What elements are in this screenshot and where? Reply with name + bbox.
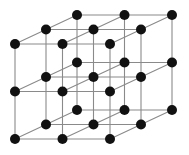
lattice-canvas bbox=[0, 0, 189, 155]
lattice-atom bbox=[10, 134, 20, 144]
lattice-bond bbox=[63, 30, 94, 45]
lattice-bond bbox=[141, 110, 172, 125]
lattice-bond bbox=[141, 63, 172, 78]
lattice-bond bbox=[141, 15, 172, 30]
lattice-bond bbox=[110, 30, 141, 45]
lattice-bond bbox=[15, 30, 46, 45]
lattice-atom bbox=[105, 87, 115, 97]
lattice-bond bbox=[63, 125, 94, 140]
lattice-atom bbox=[58, 39, 68, 49]
lattice-atom bbox=[120, 105, 130, 115]
lattice-bond bbox=[94, 110, 125, 125]
lattice-atom bbox=[136, 72, 146, 82]
lattice-bond bbox=[110, 125, 141, 140]
lattice-node-layer bbox=[10, 10, 177, 144]
lattice-bond bbox=[110, 77, 141, 92]
lattice-atom bbox=[41, 72, 51, 82]
lattice-atom bbox=[72, 10, 82, 20]
lattice-atom bbox=[105, 39, 115, 49]
lattice-atom bbox=[136, 25, 146, 35]
lattice-atom bbox=[10, 39, 20, 49]
lattice-atom bbox=[41, 25, 51, 35]
lattice-bond bbox=[15, 77, 46, 92]
lattice-bond bbox=[63, 77, 94, 92]
lattice-atom bbox=[89, 72, 99, 82]
lattice-atom bbox=[120, 10, 130, 20]
lattice-bond bbox=[94, 15, 125, 30]
lattice-bond bbox=[46, 110, 77, 125]
lattice-atom bbox=[89, 120, 99, 130]
lattice-atom bbox=[120, 58, 130, 68]
lattice-atom bbox=[105, 134, 115, 144]
lattice-atom bbox=[41, 120, 51, 130]
lattice-atom bbox=[10, 87, 20, 97]
lattice-atom bbox=[167, 58, 177, 68]
lattice-atom bbox=[89, 25, 99, 35]
lattice-atom bbox=[167, 105, 177, 115]
lattice-atom bbox=[167, 10, 177, 20]
lattice-atom bbox=[136, 120, 146, 130]
lattice-atom bbox=[58, 134, 68, 144]
lattice-atom bbox=[72, 105, 82, 115]
lattice-bond bbox=[46, 63, 77, 78]
lattice-atom bbox=[72, 58, 82, 68]
lattice-bond bbox=[15, 125, 46, 140]
lattice-bond bbox=[46, 15, 77, 30]
lattice-bond bbox=[94, 63, 125, 78]
lattice-atom bbox=[58, 87, 68, 97]
cubic-lattice-figure bbox=[0, 0, 189, 155]
